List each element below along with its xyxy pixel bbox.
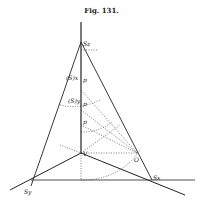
- label-sz: Sz: [83, 40, 91, 47]
- lower-left-line: [10, 153, 81, 190]
- left-side-line: [31, 42, 81, 186]
- label-p3: p: [83, 118, 87, 126]
- label-p1: p: [83, 76, 87, 84]
- label-p2: p: [83, 100, 87, 108]
- label-o: O: [134, 156, 139, 163]
- label-sx: Sx: [153, 174, 161, 181]
- label-v: V: [83, 150, 88, 157]
- label-sx-paren: (S)x: [66, 74, 79, 81]
- label-sy-paren: (S)y: [68, 97, 81, 105]
- geometry-diagram: Sz (S)x (S)y p p p V O Sy Sx: [0, 0, 203, 207]
- right-side-line: [81, 42, 152, 180]
- label-sy: Sy: [24, 188, 32, 196]
